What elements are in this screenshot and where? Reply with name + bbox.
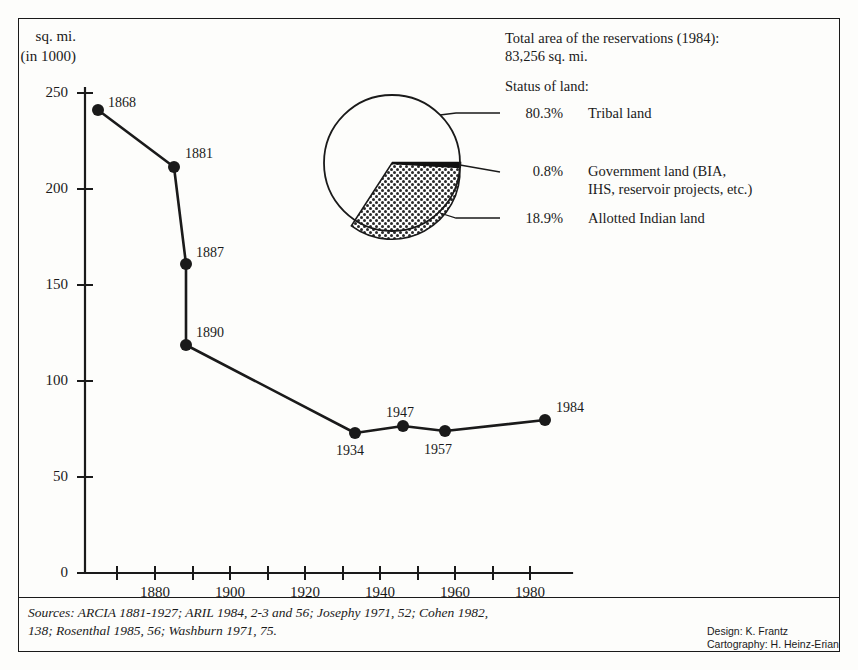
credit-design: Design: K. Frantz bbox=[707, 625, 788, 637]
pie-label-government-line2: IHS, reservoir projects, etc.) bbox=[588, 181, 752, 198]
pie-label-tribal: Tribal land bbox=[588, 105, 652, 122]
data-point-label-1868: 1868 bbox=[108, 95, 136, 112]
data-point-1890 bbox=[180, 339, 192, 351]
figure-page: sq. mi. (in 1000) 250 200 150 100 50 0 1… bbox=[0, 0, 858, 670]
y-tick-label-200: 200 bbox=[26, 180, 68, 198]
data-point-label-1881: 1881 bbox=[185, 146, 213, 163]
data-point-1947 bbox=[397, 420, 409, 432]
pie-label-allotted: Allotted Indian land bbox=[588, 210, 705, 227]
sources-line1: Sources: ARCIA 1881-1927; ARIL 1984, 2-3… bbox=[28, 605, 488, 621]
x-tick-label-1940: 1940 bbox=[350, 584, 410, 602]
axes-group bbox=[85, 88, 572, 573]
leader-line-tribal bbox=[440, 113, 500, 115]
data-point-1984 bbox=[539, 414, 551, 426]
x-tick-label-1980: 1980 bbox=[500, 584, 560, 602]
total-area-line1: Total area of the reservations (1984): bbox=[505, 30, 719, 47]
credit-cartography: Cartography: H. Heinz-Erian bbox=[707, 638, 839, 650]
y-tick-label-50: 50 bbox=[26, 468, 68, 486]
data-point-1881 bbox=[168, 161, 180, 173]
x-tick-label-1960: 1960 bbox=[425, 584, 485, 602]
data-series-line bbox=[98, 110, 545, 433]
y-axis-title-line1: sq. mi. bbox=[14, 28, 76, 46]
pie-chart-group bbox=[324, 95, 460, 239]
y-tick-label-250: 250 bbox=[26, 84, 68, 102]
data-point-label-1934: 1934 bbox=[336, 443, 364, 460]
y-tick-label-100: 100 bbox=[26, 372, 68, 390]
x-tick-label-1900: 1900 bbox=[200, 584, 260, 602]
pie-slice-allotted-indian-land bbox=[351, 163, 460, 239]
y-tick-label-0: 0 bbox=[26, 564, 68, 582]
leader-line-allotted bbox=[440, 213, 500, 218]
pie-label-government-line1: Government land (BIA, bbox=[588, 163, 726, 180]
data-point-1957 bbox=[439, 425, 451, 437]
pie-percent-allotted: 18.9% bbox=[505, 210, 563, 227]
x-tick-label-1880: 1880 bbox=[125, 584, 185, 602]
y-tick-label-150: 150 bbox=[26, 276, 68, 294]
data-point-label-1890: 1890 bbox=[196, 325, 224, 342]
y-axis-title-line2: (in 1000) bbox=[6, 48, 76, 66]
data-point-1934 bbox=[349, 427, 361, 439]
leader-line-government bbox=[460, 165, 500, 172]
sources-line2: 138; Rosenthal 1985, 56; Washburn 1971, … bbox=[28, 623, 277, 639]
data-point-1887 bbox=[180, 258, 192, 270]
pie-percent-government: 0.8% bbox=[505, 163, 563, 180]
pie-percent-tribal: 80.3% bbox=[505, 105, 563, 122]
data-point-label-1887: 1887 bbox=[196, 245, 224, 262]
data-point-markers bbox=[92, 104, 551, 439]
data-point-1868 bbox=[92, 104, 104, 116]
data-point-label-1984: 1984 bbox=[556, 400, 584, 417]
status-of-land-header: Status of land: bbox=[505, 78, 589, 95]
data-point-label-1957: 1957 bbox=[424, 442, 452, 459]
data-point-label-1947: 1947 bbox=[386, 405, 414, 422]
x-tick-label-1920: 1920 bbox=[275, 584, 335, 602]
total-area-line2: 83,256 sq. mi. bbox=[505, 48, 588, 65]
